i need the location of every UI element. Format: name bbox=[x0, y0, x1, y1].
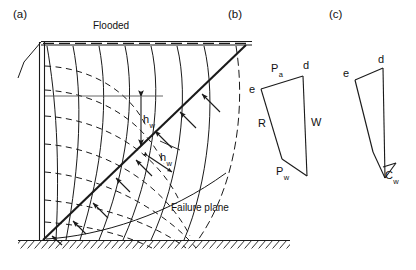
flooded-water-surface bbox=[41, 42, 252, 46]
panel-b-force-pa-subscript: a bbox=[279, 70, 283, 79]
panel-b-vertex-e: e bbox=[249, 84, 255, 95]
panel-b-force-r: R bbox=[258, 118, 266, 129]
retaining-wall bbox=[40, 42, 45, 241]
failure-plane-label: Failure plane bbox=[171, 203, 229, 213]
head-label-upper-subscript: w bbox=[149, 121, 154, 130]
panel-tag-b: (b) bbox=[228, 9, 242, 21]
panel-b-force-pw: Pw bbox=[276, 166, 289, 180]
head-label-lower: hw bbox=[160, 152, 172, 166]
panel-b-vertex-d: d bbox=[303, 60, 309, 71]
panel-tag-a: (a) bbox=[13, 9, 27, 21]
panel-c-force-cw: Cw bbox=[385, 170, 398, 184]
flooded-label: Flooded bbox=[93, 21, 129, 31]
panel-b-force-pa: Pa bbox=[271, 63, 283, 77]
panel-b-force-w: W bbox=[311, 117, 321, 128]
diagram-vector-layer bbox=[0, 0, 416, 270]
panel-b-force-pa-symbol: P bbox=[271, 62, 278, 74]
panel-c-force-cw-subscript: w bbox=[393, 177, 398, 186]
figure-canvas: (a) (b) (c) Flooded Failure plane hw hw … bbox=[0, 0, 416, 270]
flow-lines bbox=[45, 66, 196, 248]
panel-c-vertex-d: d bbox=[378, 54, 384, 65]
panel-c-force-polygon bbox=[355, 68, 396, 178]
head-label-upper: hw bbox=[143, 114, 155, 128]
panel-b-force-pw-subscript: w bbox=[284, 173, 289, 182]
left-ground-surface bbox=[18, 42, 41, 78]
panel-c-vertex-e: e bbox=[343, 68, 349, 79]
panel-b-force-pw-symbol: P bbox=[276, 165, 283, 177]
panel-tag-c: (c) bbox=[329, 9, 342, 21]
head-label-lower-subscript: w bbox=[166, 159, 171, 168]
panel-c-force-cw-symbol: C bbox=[385, 169, 393, 181]
panel-a-group bbox=[18, 42, 290, 249]
panel-b-force-polygon bbox=[261, 76, 307, 176]
seepage-pressure-arrows bbox=[52, 94, 220, 245]
